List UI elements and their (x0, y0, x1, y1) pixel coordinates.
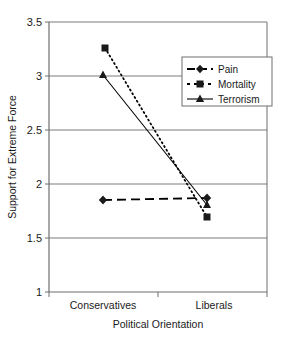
y-tick-label-3.5: 3.5 (27, 16, 42, 28)
y-axis-title: Support for Extreme Force (6, 95, 18, 219)
y-tick-label-2: 2 (36, 178, 42, 190)
square-icon (197, 81, 204, 88)
legend[interactable]: Pain Mortality Terrorism (182, 57, 272, 106)
y-tick-label-1.5: 1.5 (27, 232, 42, 244)
line-chart: 3.5 3 2.5 2 1.5 1 Conservatives Liberals… (0, 0, 282, 338)
legend-label-pain: Pain (218, 64, 238, 75)
chart-background (0, 0, 282, 338)
y-tick-label-2.5: 2.5 (27, 124, 42, 136)
y-tick-label-1: 1 (36, 286, 42, 298)
y-tick-label-3: 3 (36, 70, 42, 82)
x-axis-title: Political Orientation (113, 318, 204, 330)
x-tick-label-liberals: Liberals (196, 299, 233, 311)
series-mortality-marker-liberals (204, 214, 211, 221)
x-tick-label-conservatives: Conservatives (70, 299, 137, 311)
figure-container: 3.5 3 2.5 2 1.5 1 Conservatives Liberals… (0, 0, 282, 338)
series-mortality-marker-conservatives (102, 45, 109, 52)
legend-label-mortality: Mortality (218, 79, 256, 90)
legend-label-terrorism: Terrorism (218, 94, 260, 105)
